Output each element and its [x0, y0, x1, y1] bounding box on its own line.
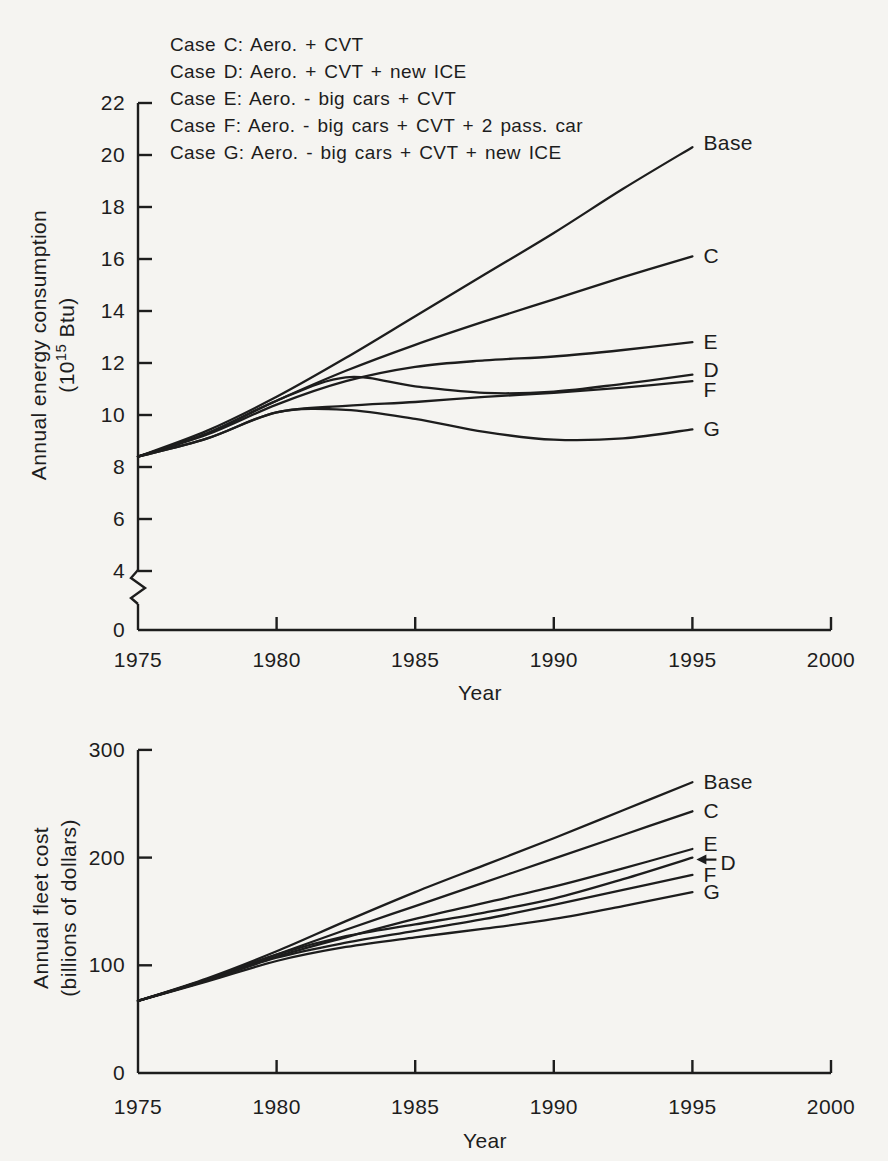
series-line-Base: [138, 147, 692, 456]
series-label-Base: Base: [703, 131, 752, 154]
x-tick-label: 1985: [391, 648, 439, 671]
y-tick-label: 10: [101, 403, 125, 426]
series-label-D: D: [720, 851, 736, 874]
legend-case-g: Case G: Aero. - big cars + CVT + new ICE: [170, 139, 583, 166]
y-tick-label: 0: [113, 1061, 125, 1084]
series-label-E: E: [703, 330, 717, 353]
y-tick-label: 16: [101, 247, 125, 270]
legend-case-e: Case E: Aero. - big cars + CVT: [170, 85, 583, 112]
y-tick-label: 100: [89, 953, 125, 976]
y-axis-title: Annual fleet cost: [29, 827, 52, 989]
series-label-C: C: [703, 799, 719, 822]
x-tick-label: 1990: [530, 1095, 578, 1118]
x-tick-label: 1980: [252, 1095, 300, 1118]
series-line-Base: [138, 782, 692, 1001]
series-label-C: C: [703, 244, 719, 267]
series-line-G: [138, 409, 692, 457]
x-tick-label: 2000: [807, 648, 855, 671]
y-tick-label: 300: [89, 738, 125, 761]
series-label-G: G: [703, 417, 720, 440]
x-tick-label: 1995: [668, 1095, 716, 1118]
scanned-figure-page: 0468101214161820221975198019851990199520…: [0, 0, 888, 1161]
y-axis-title: Annual energy consumption: [27, 210, 50, 480]
y-tick-label: 20: [101, 143, 125, 166]
y-axis-unit: (billions of dollars): [57, 819, 80, 997]
y-tick-label: 0: [113, 618, 125, 641]
series-label-F: F: [703, 378, 716, 401]
y-tick-label: 14: [101, 299, 125, 322]
x-tick-label: 1995: [668, 648, 716, 671]
legend: Case C: Aero. + CVT Case D: Aero. + CVT …: [170, 31, 583, 166]
fleet-cost-chart: 0100200300197519801985199019952000YearAn…: [29, 738, 855, 1152]
y-axis-break: [131, 570, 145, 604]
figure-canvas: 0468101214161820221975198019851990199520…: [0, 0, 888, 1161]
x-tick-label: 2000: [807, 1095, 855, 1118]
legend-case-f: Case F: Aero. - big cars + CVT + 2 pass.…: [170, 112, 583, 139]
y-tick-label: 18: [101, 195, 125, 218]
x-tick-label: 1990: [530, 648, 578, 671]
x-axis-title: Year: [458, 681, 502, 704]
y-tick-label: 12: [101, 351, 125, 374]
series-label-G: G: [703, 880, 720, 903]
y-axis-unit: (1015 Btu): [52, 297, 78, 392]
y-tick-label: 6: [113, 507, 125, 530]
series-line-D: [138, 858, 692, 1001]
x-axis-title: Year: [463, 1129, 507, 1152]
energy-consumption-chart: 0468101214161820221975198019851990199520…: [27, 91, 855, 704]
series-label-E: E: [703, 832, 717, 855]
y-tick-label: 8: [113, 455, 125, 478]
y-tick-label: 200: [89, 846, 125, 869]
series-label-Base: Base: [703, 770, 752, 793]
x-tick-label: 1980: [252, 648, 300, 671]
legend-case-d: Case D: Aero. + CVT + new ICE: [170, 58, 583, 85]
y-tick-label: 22: [101, 91, 125, 114]
y-tick-label: 4: [113, 559, 125, 582]
x-tick-label: 1975: [114, 648, 162, 671]
legend-case-c: Case C: Aero. + CVT: [170, 31, 583, 58]
series-line-G: [138, 892, 692, 1001]
x-tick-label: 1975: [114, 1095, 162, 1118]
series-line-D: [138, 375, 692, 457]
x-tick-label: 1985: [391, 1095, 439, 1118]
